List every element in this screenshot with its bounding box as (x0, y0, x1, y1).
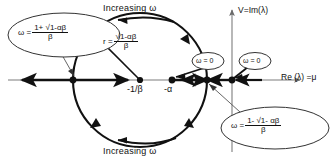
circle-center-dot (137, 77, 143, 83)
minus-alpha-label: -α (164, 85, 172, 94)
omega-zero-inner-label: ω = 0 (196, 57, 213, 64)
leader-omega-zero-origin (234, 67, 248, 80)
callout-omega-plus-denominator: β (32, 33, 68, 41)
omega-zero-origin-label: ω = 0 (243, 57, 260, 64)
callout-omega-minus-fraction: 1- √1- αβ β (245, 117, 281, 134)
leader-omega-minus (209, 84, 240, 112)
radius-fraction: √1-αβ β (114, 33, 139, 50)
circle-center-label: -1/β (127, 85, 143, 94)
imaginary-axis-label: V=Im(λ) (238, 6, 268, 15)
radius-prefix: r = (103, 38, 113, 46)
leader-omega-plus (62, 55, 74, 76)
callout-omega-minus-denominator: β (245, 126, 281, 134)
callout-omega-plus-text: ω = 1+ √1-αβ β (18, 24, 68, 41)
figure-canvas: Increasing ω Increasing ω V=Im(λ) Re (λ)… (0, 0, 336, 162)
radius-denominator: β (114, 42, 139, 50)
callout-omega-minus-text: ω = 1- √1- αβ β (231, 117, 281, 134)
real-axis-label: Re (λ) =μ (281, 73, 316, 82)
callout-omega-minus-lead: ω = (231, 122, 244, 130)
callout-omega-plus-lead: ω = (18, 29, 31, 37)
increasing-omega-top-label: Increasing ω (103, 4, 156, 13)
increasing-omega-arc-bottom (118, 137, 176, 144)
increasing-omega-bottom-label: Increasing ω (103, 147, 156, 156)
callout-omega-plus-fraction: 1+ √1-αβ β (32, 24, 68, 41)
radius-expression: r = √1-αβ β (103, 33, 138, 50)
